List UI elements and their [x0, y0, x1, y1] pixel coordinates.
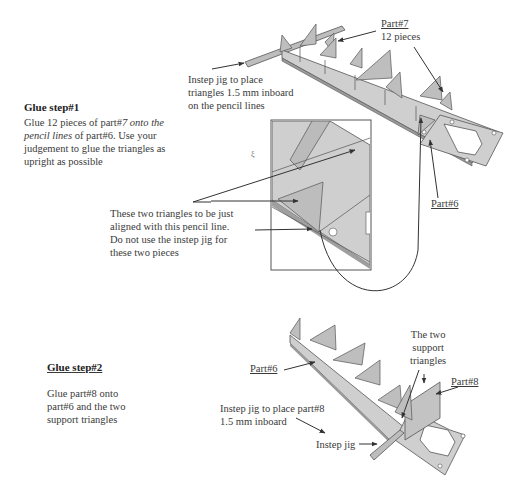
step1-instructions: Glue 12 pieces of part#7 onto the pencil…	[24, 116, 165, 168]
step2-part6-label: Part#6	[250, 362, 277, 375]
step2-instructions: Glue part#8 onto part#6 and the two supp…	[47, 387, 125, 426]
step1-title: Glue step#1	[24, 101, 79, 114]
part7-label: Part#7 12 pieces	[381, 17, 420, 43]
stray-mark: ξ	[251, 150, 255, 159]
inset-detail-box: ξ	[251, 120, 372, 270]
instep-jig-label-2: Instep jig	[316, 438, 355, 451]
part8-label: Part#8	[451, 375, 478, 388]
part7-triangles	[280, 24, 452, 135]
step2-title: Glue step#2	[47, 361, 102, 374]
instep-jig-label: Instep jig to place triangles 1.5 mm inb…	[188, 73, 294, 112]
support-triangles-label: The two support triangles	[410, 328, 446, 367]
inset-note: These two triangles to be just aligned w…	[110, 207, 233, 259]
step2-jig-label: Instep jig to place part#8 1.5 mm inboar…	[220, 402, 324, 428]
part6-label: Part#6	[431, 197, 458, 210]
